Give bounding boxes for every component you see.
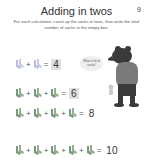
answer-box[interactable]: 8 xyxy=(87,108,97,119)
sock-pair-green-icon xyxy=(67,145,78,156)
sock-pair-green-icon xyxy=(14,108,25,119)
plus-sign: + xyxy=(44,109,49,118)
bear-illustration-icon xyxy=(108,44,148,114)
equation-row: +=4 xyxy=(14,57,61,71)
sock-pair-green-icon xyxy=(14,145,25,156)
plus-sign: + xyxy=(61,146,66,155)
equals-sign: = xyxy=(97,146,102,155)
sock-pair-blue-icon xyxy=(32,59,43,70)
instructions: For each calculation, count up the socks… xyxy=(10,19,143,30)
plus-sign: + xyxy=(26,146,31,155)
answer-box[interactable]: 6 xyxy=(69,88,79,99)
plus-sign: + xyxy=(44,146,49,155)
sock-pair-green-icon xyxy=(32,145,43,156)
equals-sign: = xyxy=(61,89,66,98)
answer-box[interactable]: 4 xyxy=(51,59,61,70)
sock-pair-green-icon xyxy=(85,145,96,156)
plus-sign: + xyxy=(79,146,84,155)
sock-pair-green-icon xyxy=(49,145,60,156)
plus-sign: + xyxy=(61,109,66,118)
plus-sign: + xyxy=(26,60,31,69)
speech-bubble-text: What a lot of socks! xyxy=(80,60,103,67)
sock-pair-blue-icon xyxy=(14,59,25,70)
sock-pair-green-icon xyxy=(67,108,78,119)
equals-sign: = xyxy=(44,60,49,69)
sock-pair-green-icon xyxy=(49,108,60,119)
sock-pair-green-icon xyxy=(32,108,43,119)
sock-pair-green-icon xyxy=(49,88,60,99)
plus-sign: + xyxy=(44,89,49,98)
page-number: 9 xyxy=(137,6,141,13)
plus-sign: + xyxy=(26,109,31,118)
equals-sign: = xyxy=(79,109,84,118)
page-title: Adding in twos xyxy=(0,5,153,17)
sock-pair-green-icon xyxy=(14,88,25,99)
speech-bubble: What a lot of socks! xyxy=(80,56,103,71)
equation-row: ++++=10 xyxy=(14,143,119,157)
sock-pair-green-icon xyxy=(32,88,43,99)
answer-box[interactable]: 10 xyxy=(104,145,119,156)
equation-row: +++=8 xyxy=(14,106,96,120)
equation-row: ++=6 xyxy=(14,86,79,100)
plus-sign: + xyxy=(26,89,31,98)
mouse-illustration-icon xyxy=(107,84,115,96)
